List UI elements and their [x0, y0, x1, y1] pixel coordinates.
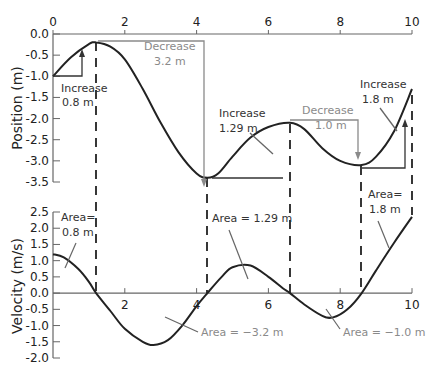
y-tick-label: -1.0 — [26, 69, 49, 83]
area-1.8-label-line1: Area= — [368, 188, 403, 201]
y-tick-label: 0.0 — [30, 286, 49, 300]
increase-1.8-bracket — [362, 123, 405, 168]
area-neg3.2-leader — [165, 317, 198, 332]
area-0.8-label-line2: 0.8 m — [62, 226, 94, 239]
y-tick-label: -0.5 — [26, 302, 49, 316]
decrease-3.2-label-line1: Decrease — [144, 40, 196, 53]
x-tick-label: 6 — [265, 298, 273, 312]
increase-0.8-label-line1: Increase — [61, 82, 108, 95]
decrease-1.0-label-line1: Decrease — [302, 104, 354, 117]
y-tick-label: 0.5 — [30, 270, 49, 284]
x-tick-label: 2 — [121, 15, 129, 29]
y-tick-label: -0.5 — [26, 48, 49, 62]
increase-0.8-label-line2: 0.8 m — [62, 96, 94, 109]
increase-1.29-label-line1: Increase — [219, 107, 266, 120]
y-tick-label: 2.0 — [30, 221, 49, 235]
area-1.8-label-line2: 1.8 m — [369, 203, 401, 216]
x-tick-label: 8 — [336, 15, 344, 29]
y-tick-label: -2.0 — [26, 112, 49, 126]
y-tick-label: -2.0 — [26, 351, 49, 365]
increase-1.8-label-line1: Increase — [360, 78, 407, 91]
position-axis-title: Position (m) — [9, 66, 25, 150]
y-tick-label: -1.5 — [26, 90, 49, 104]
x-tick-label: 8 — [336, 298, 344, 312]
increase-1.29-leader — [250, 133, 273, 154]
increase-1.8-leader — [380, 108, 397, 131]
x-tick-label: 4 — [193, 15, 201, 29]
x-tick-label: 10 — [404, 298, 419, 312]
area-neg3.2-label: Area = −3.2 m — [201, 326, 283, 339]
decrease-3.2-label-line2: 3.2 m — [154, 55, 186, 68]
y-tick-label: 1.5 — [30, 237, 49, 251]
arrowhead-down-icon — [355, 152, 361, 160]
chart-svg: 02468100.0-0.5-1.0-1.5-2.0-2.5-3.0-3.5 2… — [0, 0, 428, 374]
y-tick-label: 2.5 — [30, 205, 49, 219]
position-velocity-chart: 02468100.0-0.5-1.0-1.5-2.0-2.5-3.0-3.5 2… — [0, 0, 428, 374]
velocity-axis-title: Velocity (m/s) — [9, 238, 25, 334]
y-tick-label: 1.0 — [30, 254, 49, 268]
x-tick-label: 6 — [265, 15, 273, 29]
arrowhead-up-icon — [402, 119, 408, 127]
y-tick-label: 0.0 — [30, 27, 49, 41]
increase-1.8-label-line2: 1.8 m — [362, 93, 394, 106]
y-tick-label: -3.0 — [26, 154, 49, 168]
x-tick-label: 0 — [49, 15, 57, 29]
area-1.8-leader — [378, 221, 389, 248]
x-tick-label: 2 — [121, 298, 129, 312]
y-tick-label: -3.5 — [26, 175, 49, 189]
area-0.8-label-line1: Area= — [61, 211, 96, 224]
decrease-1.0-label-line2: 1.0 m — [315, 119, 347, 132]
area-neg1.0-label: Area = −1.0 m — [343, 326, 425, 339]
x-tick-label: 10 — [404, 15, 419, 29]
y-tick-label: -2.5 — [26, 133, 49, 147]
decrease-3.2-bracket — [98, 41, 204, 180]
increase-1.29-label-line2: 1.29 m — [219, 122, 258, 135]
area-1.29-leader — [229, 230, 248, 279]
y-tick-label: -1.0 — [26, 319, 49, 333]
area-1.29-label: Area = 1.29 m — [212, 212, 292, 225]
y-tick-label: -1.5 — [26, 335, 49, 349]
